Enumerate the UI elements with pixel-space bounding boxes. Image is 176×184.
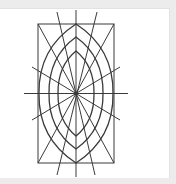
center-point xyxy=(74,92,77,95)
diagram-strokes xyxy=(24,10,128,177)
geometric-diagram xyxy=(0,0,176,184)
